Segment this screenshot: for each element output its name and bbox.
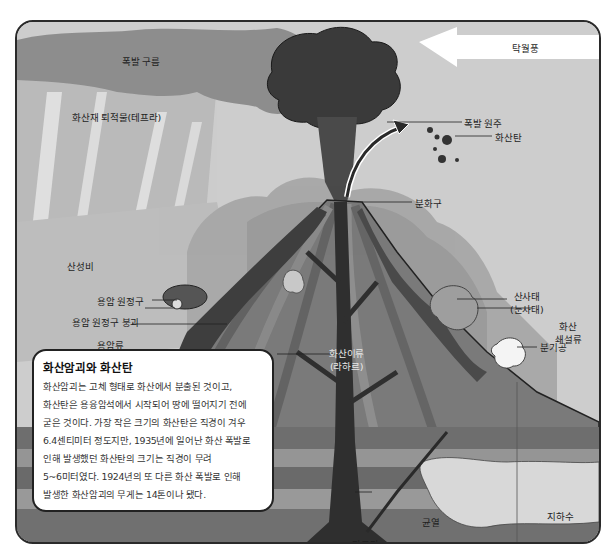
info-box: 화산암괴와 화산탄 화산암괴는 고체 형태로 화산에서 분출된 것이고, 화산탄… (32, 349, 274, 512)
diagram-frame: 폭발 구름 화산재 퇴적물(테프라) 탁월풍 폭발 원주 화산탄 분화구 산성비… (15, 20, 601, 544)
info-title: 화산암괴와 화산탄 (43, 359, 264, 375)
label-magma: 마그마 (352, 537, 378, 544)
info-body: 화산암괴는 고체 형태로 화산에서 분출된 것이고, 화산탄은 용융암석에서 시… (43, 378, 264, 504)
label-explosion-cloud: 폭발 구름 (122, 54, 160, 68)
label-crater: 분화구 (415, 196, 441, 210)
label-fumarole: 분기공 (540, 340, 566, 354)
label-fissure: 균열 (422, 515, 440, 529)
label-groundwater: 지하수 (547, 509, 573, 523)
label-eruption-column: 폭발 원주 (464, 116, 502, 130)
label-wind: 탁월풍 (512, 41, 538, 55)
label-tephra: 화산재 퇴적물(테프라) (72, 110, 161, 124)
label-landslide: 산사태 (눈사태) (510, 290, 543, 316)
label-lahar: 화산이류 (라하르) (329, 347, 364, 373)
label-volcanic-bomb: 화산탄 (495, 130, 521, 144)
label-acid-rain: 산성비 (67, 259, 93, 273)
label-lava-dome-collapse: 용암 원정구 붕괴 (72, 315, 139, 329)
lava-dome (163, 285, 207, 309)
label-lava-dome: 용암 원정구 (97, 294, 144, 308)
